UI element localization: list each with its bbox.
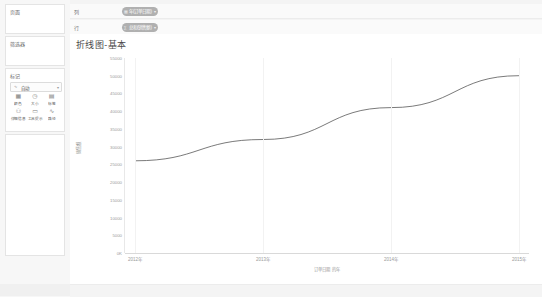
marks-button-path[interactable]: ∿ 路径 <box>43 108 60 123</box>
marks-button-color[interactable]: ▦ 颜色 <box>10 93 27 108</box>
line-series-sum-sales <box>135 76 519 161</box>
y-axis-tick-label: 10000 <box>96 215 122 220</box>
pages-pane-title: 页面 <box>10 8 20 15</box>
columns-shelf-label: 列 <box>74 8 79 15</box>
y-axis-tick-label: 20000 <box>96 180 122 185</box>
marks-button-size-label: 大小 <box>31 101 38 106</box>
filters-pane-title: 筛选器 <box>10 40 25 47</box>
marks-button-path-label: 路径 <box>48 116 55 121</box>
worksheet-view: 折线图-基本 0K5000100001500020000250003000035… <box>70 34 542 296</box>
chevron-down-icon: ▾ <box>154 23 156 32</box>
left-rail: 页面 筛选器 标记 ∿ 自动 ▾ ▦ 颜色 ◷ 大小 <box>0 0 70 296</box>
marks-card-empty-area[interactable] <box>5 134 65 256</box>
path-icon: ∿ <box>49 108 54 115</box>
x-axis-tick-label: 2013年 <box>256 256 270 262</box>
marks-button-size[interactable]: ◷ 大小 <box>27 93 44 108</box>
chevron-down-icon: ▾ <box>57 85 59 90</box>
y-axis-ticks: 0K50001000015000200002500030000350004000… <box>86 58 122 253</box>
columns-shelf[interactable]: 列 ▦ 年(订单日期) ▾ <box>70 4 542 19</box>
y-axis-tick-label: 40000 <box>96 109 122 114</box>
worksheet-footer <box>70 284 542 297</box>
detail-icon: ⚇ <box>16 108 21 115</box>
y-axis-tick-label: 45000 <box>96 91 122 96</box>
pill-columns-year-order-date[interactable]: ▦ 年(订单日期) ▾ <box>122 7 158 16</box>
marks-button-detail-label: 详细信息 <box>11 116 26 121</box>
line-chart-plot <box>125 58 529 253</box>
x-axis-tick-label: 2015年 <box>512 256 526 262</box>
y-axis-title: 销售额 <box>75 142 81 154</box>
marks-button-label[interactable]: ▤ 标签 <box>43 93 60 108</box>
y-axis-tick-label: 5000 <box>96 233 122 238</box>
y-axis-tick-label: 35000 <box>96 126 122 131</box>
x-axis-line <box>125 253 529 254</box>
pill-columns-text: 年(订单日期) <box>129 9 152 14</box>
x-axis-gridline <box>263 58 264 253</box>
y-axis-tick-label: 50000 <box>96 73 122 78</box>
marks-button-tooltip[interactable]: ▭ 工具提示 <box>27 108 44 123</box>
filters-pane[interactable]: 筛选器 <box>5 36 65 66</box>
sum-icon: ∑ <box>124 23 127 32</box>
left-rail-footer <box>0 284 70 296</box>
marks-card[interactable]: 标记 ∿ 自动 ▾ ▦ 颜色 ◷ 大小 ▤ 标签 <box>5 68 65 132</box>
rows-shelf-label: 行 <box>74 24 79 31</box>
label-icon: ▤ <box>49 93 55 100</box>
marks-button-label-label: 标签 <box>48 101 55 106</box>
marks-button-tooltip-label: 工具提示 <box>28 116 43 121</box>
marks-card-title: 标记 <box>10 72 20 79</box>
marks-button-color-label: 颜色 <box>15 101 22 106</box>
marks-buttons-grid: ▦ 颜色 ◷ 大小 ▤ 标签 ⚇ 详细信息 ▭ 工具提示 <box>10 93 60 123</box>
line-icon: ∿ <box>14 85 17 89</box>
color-icon: ▦ <box>15 93 21 100</box>
rows-shelf[interactable]: 行 ∑ 总和(销售额) ▾ <box>70 20 542 35</box>
y-axis-tick-label: 25000 <box>96 162 122 167</box>
mark-type-value: 自动 <box>21 85 29 91</box>
pages-pane[interactable]: 页面 <box>5 4 65 34</box>
x-axis-tick-label: 2014年 <box>384 256 398 262</box>
page-title: 折线图-基本 <box>76 38 126 51</box>
x-axis-tick-label: 2012年 <box>128 256 142 262</box>
mark-type-dropdown[interactable]: ∿ 自动 ▾ <box>10 82 62 92</box>
y-axis-tick-label: 0K <box>96 251 122 256</box>
y-axis-tick-label: 55000 <box>96 56 122 61</box>
marks-button-detail[interactable]: ⚇ 详细信息 <box>10 108 27 123</box>
x-axis-title: 订单日期 的年 <box>314 266 339 272</box>
y-axis-tick-label: 15000 <box>96 197 122 202</box>
tooltip-icon: ▭ <box>32 108 38 115</box>
pill-rows-text: 总和(销售额) <box>129 25 152 30</box>
y-axis-tick-label: 30000 <box>96 144 122 149</box>
pill-rows-sum-sales[interactable]: ∑ 总和(销售额) ▾ <box>122 23 158 32</box>
x-axis-gridline <box>391 58 392 253</box>
x-axis-gridline <box>135 58 136 253</box>
size-icon: ◷ <box>32 93 37 100</box>
x-axis-gridline <box>519 58 520 253</box>
calendar-icon: ▦ <box>124 7 128 16</box>
chevron-down-icon: ▾ <box>154 7 156 16</box>
